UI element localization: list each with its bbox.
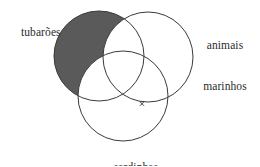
- label-sardinhas: sardinhas: [0, 147, 260, 166]
- x-mark: ×: [139, 97, 146, 111]
- label-animais-marinhos: animais marinhos: [196, 12, 254, 120]
- label-animais-marinhos-line1: animais: [196, 39, 254, 53]
- label-tubaroes-text: tubarões: [21, 26, 61, 38]
- label-animais-marinhos-line2: marinhos: [196, 80, 254, 94]
- label-sardinhas-text: sardinhas: [114, 161, 158, 167]
- label-tubaroes: tubarões: [9, 12, 61, 53]
- venn-diagram: × tubarões animais marinhos sardinhas: [0, 0, 260, 166]
